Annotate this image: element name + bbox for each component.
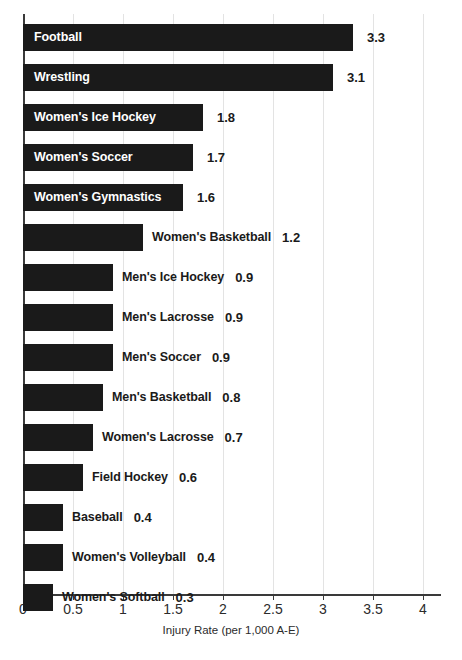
bar-category-label: Men's Soccer — [122, 344, 201, 371]
x-axis-title: Injury Rate (per 1,000 A-E) — [0, 624, 462, 636]
bar-value-label: 0.4 — [197, 544, 215, 571]
bar-row: Men's Basketball0.8 — [0, 384, 462, 411]
page-header-sliver — [0, 0, 462, 1]
bar-category-label: Baseball — [72, 504, 123, 531]
bar — [23, 384, 103, 411]
bar-row: Football3.3 — [0, 24, 462, 51]
bar-row: Men's Ice Hockey0.9 — [0, 264, 462, 291]
bar-row: Field Hockey0.6 — [0, 464, 462, 491]
bar-category-label: Field Hockey — [92, 464, 168, 491]
bar-value-label: 1.8 — [217, 104, 235, 131]
bar — [23, 224, 143, 251]
bar-category-label: Women's Basketball — [152, 224, 271, 251]
bar-value-label: 1.7 — [207, 144, 225, 171]
bar-row: Women's Soccer1.7 — [0, 144, 462, 171]
bar-row: Women's Basketball1.2 — [0, 224, 462, 251]
bar-category-label: Men's Basketball — [112, 384, 211, 411]
bar — [23, 264, 113, 291]
bar-row: Men's Lacrosse0.9 — [0, 304, 462, 331]
bar-category-label: Men's Ice Hockey — [122, 264, 224, 291]
bar-value-label: 0.3 — [176, 584, 194, 611]
bar-category-label: Women's Lacrosse — [102, 424, 214, 451]
bar-category-label: Women's Softball — [62, 584, 165, 611]
bar-category-label: Women's Ice Hockey — [34, 104, 156, 131]
bar — [23, 544, 63, 571]
bar — [23, 504, 63, 531]
bar-category-label: Men's Lacrosse — [122, 304, 214, 331]
bar-row: Women's Volleyball0.4 — [0, 544, 462, 571]
bar-category-label: Football — [34, 24, 82, 51]
bar-value-label: 1.6 — [197, 184, 215, 211]
bar-row: Men's Soccer0.9 — [0, 344, 462, 371]
bar-category-label: Women's Gymnastics — [34, 184, 161, 211]
bar-value-label: 3.1 — [347, 64, 365, 91]
bar — [23, 464, 83, 491]
bar-row: Women's Gymnastics1.6 — [0, 184, 462, 211]
bar — [23, 424, 93, 451]
bar-category-label: Wrestling — [34, 64, 90, 91]
bar-value-label: 1.2 — [282, 224, 300, 251]
bar-value-label: 3.3 — [367, 24, 385, 51]
bar-row: Wrestling3.1 — [0, 64, 462, 91]
bar-value-label: 0.9 — [225, 304, 243, 331]
bar — [23, 304, 113, 331]
bar-row: Women's Ice Hockey1.8 — [0, 104, 462, 131]
bar-value-label: 0.6 — [179, 464, 197, 491]
page-caption-sliver — [0, 651, 462, 660]
bar-value-label: 0.4 — [134, 504, 152, 531]
bar-row: Women's Softball0.3 — [0, 584, 462, 611]
bar-value-label: 0.9 — [235, 264, 253, 291]
bar — [23, 344, 113, 371]
bar-row: Women's Lacrosse0.7 — [0, 424, 462, 451]
bar-value-label: 0.9 — [212, 344, 230, 371]
bar-category-label: Women's Soccer — [34, 144, 133, 171]
bar-chart-figure: 00.511.522.533.54 Injury Rate (per 1,000… — [0, 0, 462, 660]
bar — [23, 584, 53, 611]
bar-value-label: 0.7 — [225, 424, 243, 451]
bar-category-label: Women's Volleyball — [72, 544, 186, 571]
bar-row: Baseball0.4 — [0, 504, 462, 531]
bar-value-label: 0.8 — [222, 384, 240, 411]
